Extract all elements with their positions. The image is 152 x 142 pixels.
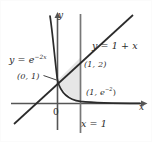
shaded-region <box>58 58 81 102</box>
line-equation-label: y = 1 + x <box>92 41 138 51</box>
leader-line-point-0-1 <box>44 76 57 81</box>
point-label-1-2: (1, 2) <box>84 60 107 68</box>
point-label-1-e-minus-2: (1, e−2) <box>86 88 116 96</box>
vertical-line-label: x = 1 <box>81 119 107 129</box>
point-label-suffix: ) <box>113 87 116 97</box>
point-label-prefix: (1, e <box>86 87 105 97</box>
x-axis-label: x <box>139 103 144 112</box>
figure-container: y = e−2x y = 1 + x (0, 1) (1, 2) (1, e−2… <box>0 0 152 142</box>
curve-equation-text: y = e <box>9 54 35 65</box>
curve-equation-exponent: −2x <box>35 54 47 60</box>
y-axis-label: y <box>58 11 63 20</box>
origin-label: 0 <box>53 108 59 117</box>
curve-equation-label: y = e−2x <box>9 55 47 65</box>
line-y-equals-1-plus-x <box>14 15 133 124</box>
point-label-exponent: −2 <box>105 86 113 92</box>
point-label-0-1: (0, 1) <box>17 72 40 80</box>
